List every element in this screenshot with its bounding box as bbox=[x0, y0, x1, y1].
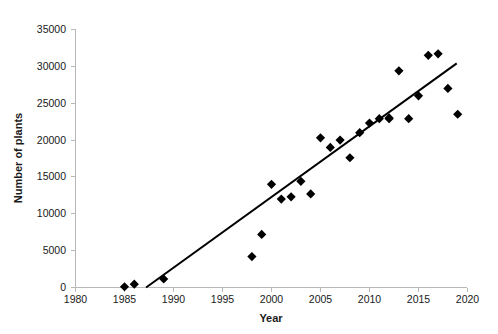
data-point bbox=[404, 114, 413, 123]
x-axis-tick-labels: 1980 1985 1990 1995 2000 2005 2010 2015 … bbox=[64, 293, 480, 305]
data-point bbox=[306, 189, 315, 198]
data-point bbox=[120, 282, 129, 291]
data-point-series bbox=[120, 49, 462, 291]
data-point bbox=[287, 192, 296, 201]
scatter-chart: 35000 30000 25000 20000 15000 10000 5000… bbox=[0, 0, 498, 334]
y-axis-tick-labels: 35000 30000 25000 20000 15000 10000 5000… bbox=[37, 23, 66, 293]
trend-line bbox=[146, 63, 457, 287]
chart-canvas: 35000 30000 25000 20000 15000 10000 5000… bbox=[0, 0, 498, 334]
x-axis-group: 1980 1985 1990 1995 2000 2005 2010 2015 … bbox=[64, 288, 480, 325]
x-tick-label-2010: 2010 bbox=[358, 293, 382, 305]
y-axis-group: 35000 30000 25000 20000 15000 10000 5000… bbox=[12, 23, 76, 293]
y-axis-ticks bbox=[71, 30, 75, 288]
y-tick-label-0: 0 bbox=[60, 281, 66, 293]
data-point bbox=[434, 49, 443, 58]
x-tick-label-2020: 2020 bbox=[456, 293, 480, 305]
data-point bbox=[159, 274, 168, 283]
x-tick-label-2005: 2005 bbox=[309, 293, 333, 305]
data-point bbox=[453, 110, 462, 119]
x-tick-label-1985: 1985 bbox=[113, 293, 137, 305]
data-point bbox=[247, 252, 256, 261]
y-tick-label-30000: 30000 bbox=[37, 60, 66, 72]
x-tick-label-2015: 2015 bbox=[407, 293, 431, 305]
y-tick-label-35000: 35000 bbox=[37, 23, 66, 35]
y-tick-label-10000: 10000 bbox=[37, 207, 66, 219]
y-tick-label-25000: 25000 bbox=[37, 97, 66, 109]
data-point bbox=[267, 180, 276, 189]
x-axis-title: Year bbox=[259, 312, 283, 324]
data-point bbox=[316, 133, 325, 142]
data-point bbox=[257, 230, 266, 239]
y-tick-label-5000: 5000 bbox=[43, 244, 67, 256]
data-point bbox=[443, 84, 452, 93]
x-tick-label-1995: 1995 bbox=[211, 293, 235, 305]
x-tick-label-2000: 2000 bbox=[260, 293, 284, 305]
x-tick-label-1990: 1990 bbox=[162, 293, 186, 305]
data-point bbox=[336, 135, 345, 144]
x-tick-label-1980: 1980 bbox=[64, 293, 88, 305]
data-point bbox=[394, 66, 403, 75]
y-tick-label-20000: 20000 bbox=[37, 134, 66, 146]
data-point bbox=[277, 194, 286, 203]
data-point bbox=[345, 153, 354, 162]
data-point bbox=[365, 119, 374, 128]
data-point bbox=[326, 143, 335, 152]
y-axis-title: Number of plants bbox=[12, 113, 24, 203]
data-point bbox=[424, 51, 433, 60]
y-tick-label-15000: 15000 bbox=[37, 170, 66, 182]
